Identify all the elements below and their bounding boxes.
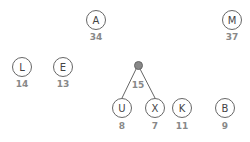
node-b[interactable]: B bbox=[215, 98, 235, 118]
node-l-value: 14 bbox=[7, 79, 37, 89]
node-label: X bbox=[152, 103, 159, 114]
node-a[interactable]: A bbox=[86, 10, 106, 30]
node-l[interactable]: L bbox=[12, 57, 32, 77]
node-label: K bbox=[179, 103, 186, 114]
junction-value: 15 bbox=[123, 80, 153, 90]
node-a-value: 34 bbox=[81, 32, 111, 42]
node-m-value: 37 bbox=[217, 32, 247, 42]
node-label: A bbox=[93, 15, 100, 26]
node-x[interactable]: X bbox=[145, 98, 165, 118]
node-e-value: 13 bbox=[48, 79, 78, 89]
node-x-value: 7 bbox=[140, 121, 170, 131]
node-e[interactable]: E bbox=[53, 57, 73, 77]
node-b-value: 9 bbox=[210, 121, 240, 131]
node-label: E bbox=[60, 62, 66, 73]
node-label: U bbox=[118, 103, 125, 114]
node-u[interactable]: U bbox=[112, 98, 132, 118]
node-k[interactable]: K bbox=[172, 98, 192, 118]
node-label: M bbox=[228, 15, 237, 26]
node-m[interactable]: M bbox=[222, 10, 242, 30]
node-u-value: 8 bbox=[107, 121, 137, 131]
node-label: L bbox=[19, 62, 25, 73]
junction-node[interactable] bbox=[134, 61, 143, 70]
node-k-value: 11 bbox=[167, 121, 197, 131]
node-label: B bbox=[222, 103, 229, 114]
